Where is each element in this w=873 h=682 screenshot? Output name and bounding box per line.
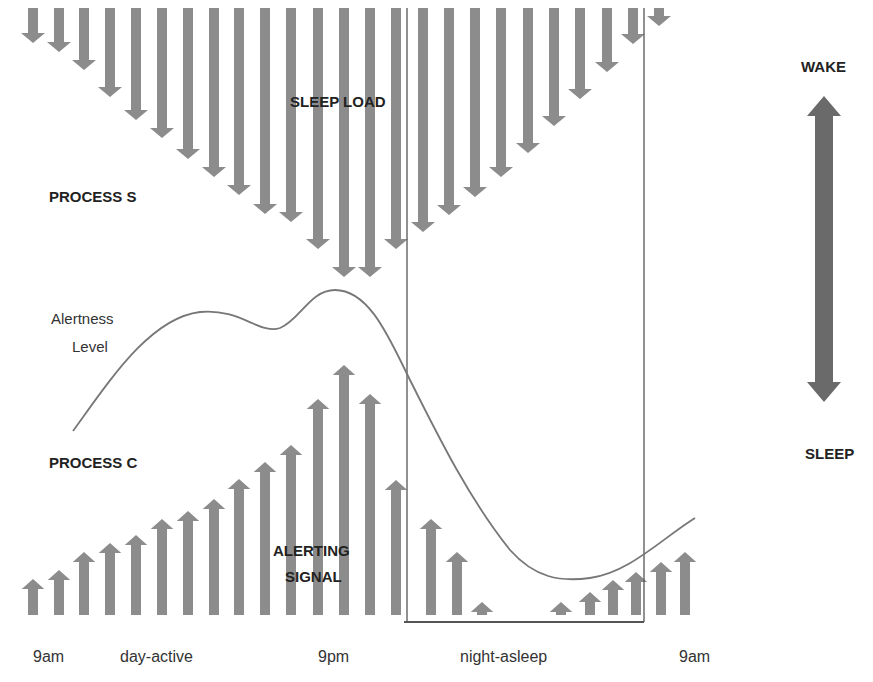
sleep-load-arrow-down-icon — [411, 8, 435, 232]
alerting-arrow-up-icon — [385, 480, 407, 615]
sleep-load-arrow-down-icon — [21, 8, 45, 43]
sleep-load-arrow-down-icon — [150, 8, 174, 138]
sleep-load-arrow-down-icon — [463, 8, 487, 197]
sleep-load-arrow-down-icon — [647, 8, 671, 26]
sleep-load-arrow-down-icon — [437, 8, 461, 215]
time-label-mid: 9pm — [318, 648, 349, 666]
alerting-arrow-up-icon — [22, 579, 44, 615]
alerting-arrow-up-icon — [420, 519, 442, 615]
process-s-label: PROCESS S — [49, 188, 137, 205]
alerting-signal-label-line1: ALERTING — [273, 542, 350, 559]
alerting-arrow-up-icon — [674, 552, 696, 615]
sleep-load-arrow-down-icon — [202, 8, 226, 177]
alerting-arrow-up-icon — [177, 511, 199, 615]
alerting-arrow-up-icon — [602, 580, 624, 615]
sleep-load-arrow-down-icon — [98, 8, 122, 97]
sleep-load-arrow-down-icon — [358, 8, 382, 277]
sleep-load-arrow-down-icon — [124, 8, 148, 120]
alerting-arrow-up-icon — [579, 592, 601, 615]
alerting-arrow-up-icon — [446, 552, 468, 615]
sleep-load-arrow-down-icon — [227, 8, 251, 195]
alerting-arrow-up-icon — [650, 562, 672, 615]
sleep-load-arrow-down-icon — [516, 8, 540, 153]
sleep-load-arrow-down-icon — [176, 8, 200, 159]
sleep-load-arrow-down-icon — [279, 8, 303, 222]
sleep-load-arrow-down-icon — [306, 8, 330, 249]
alerting-arrow-up-icon — [125, 535, 147, 615]
alerting-arrow-up-icon — [254, 462, 276, 615]
process-c-label: PROCESS C — [49, 454, 137, 471]
sleep-load-arrow-down-icon — [384, 8, 408, 249]
alerting-arrow-up-icon — [471, 602, 493, 615]
sleep-load-arrow-down-icon — [489, 8, 513, 177]
alerting-signal-label-line2: SIGNAL — [285, 568, 342, 585]
alerting-arrow-up-icon — [359, 394, 381, 615]
alerting-arrow-up-icon — [228, 479, 250, 615]
alerting-arrow-up-icon — [550, 602, 572, 615]
alertness-label-line2: Level — [72, 338, 108, 355]
alerting-arrow-up-icon — [151, 519, 173, 615]
wake-label: WAKE — [801, 58, 846, 75]
sleep-load-arrow-down-icon — [47, 8, 71, 52]
alertness-label-line1: Alertness — [51, 310, 114, 327]
alerting-arrow-up-icon — [203, 499, 225, 615]
process-s-sleep-load-arrows — [21, 8, 671, 277]
time-label-start: 9am — [33, 648, 64, 666]
sleep-load-arrow-down-icon — [568, 8, 592, 99]
diagram-canvas — [0, 0, 873, 682]
night-asleep-label: night-asleep — [460, 648, 547, 666]
alerting-arrow-up-icon — [99, 543, 121, 615]
day-active-label: day-active — [120, 648, 193, 666]
sleep-load-label: SLEEP LOAD — [290, 93, 386, 110]
alerting-arrow-up-icon — [73, 552, 95, 615]
sleep-load-arrow-down-icon — [72, 8, 96, 70]
alerting-arrow-up-icon — [280, 445, 302, 615]
wake-sleep-scale-arrow-icon — [807, 96, 841, 402]
sleep-load-arrow-down-icon — [253, 8, 277, 214]
sleep-load-arrow-down-icon — [621, 8, 645, 44]
two-process-sleep-diagram: SLEEP LOAD PROCESS S Alertness Level PRO… — [0, 0, 873, 682]
alerting-arrow-up-icon — [48, 570, 70, 615]
sleep-load-arrow-down-icon — [595, 8, 619, 72]
sleep-label: SLEEP — [805, 445, 854, 462]
sleep-load-arrow-down-icon — [332, 8, 356, 277]
sleep-load-arrow-down-icon — [542, 8, 566, 126]
time-label-end: 9am — [679, 648, 710, 666]
